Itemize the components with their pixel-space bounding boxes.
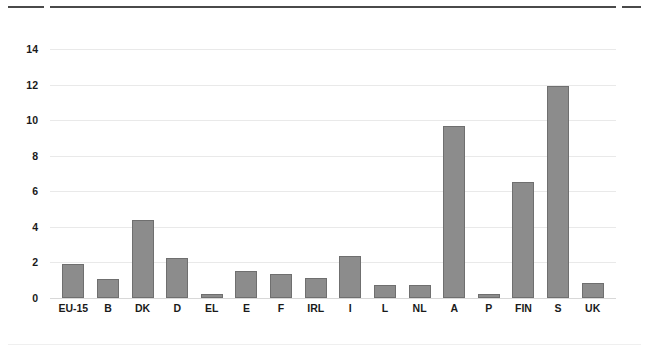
y-axis-tick-label: 0 — [32, 292, 38, 304]
x-axis-tick-label: F — [264, 302, 299, 320]
bar-series — [50, 49, 616, 298]
bar[interactable] — [235, 271, 257, 298]
bar-slot — [333, 49, 368, 298]
bar[interactable] — [339, 256, 361, 298]
x-axis-tick-label: P — [472, 302, 507, 320]
x-axis-tick-label: A — [437, 302, 472, 320]
bar[interactable] — [582, 283, 604, 298]
y-axis-tick-labels: 14 12 10 8 6 4 2 0 — [0, 49, 44, 298]
top-rule-segment-middle — [50, 6, 616, 8]
bar[interactable] — [97, 279, 119, 298]
top-rule-segment-left — [8, 6, 44, 8]
x-axis-tick-label: B — [91, 302, 126, 320]
y-axis-tick-label: 8 — [32, 150, 38, 162]
bar-slot — [160, 49, 195, 298]
bar-slot — [264, 49, 299, 298]
bar-slot — [472, 49, 507, 298]
bar[interactable] — [201, 294, 223, 298]
x-axis-tick-label: EU-15 — [56, 302, 91, 320]
bar[interactable] — [305, 278, 327, 298]
bar[interactable] — [374, 285, 396, 298]
bar-slot — [541, 49, 576, 298]
bar-slot — [195, 49, 230, 298]
bar-slot — [437, 49, 472, 298]
x-axis-tick-label: E — [229, 302, 264, 320]
bar-slot — [506, 49, 541, 298]
x-axis-tick-label: DK — [125, 302, 160, 320]
top-rule-segment-right — [622, 6, 641, 8]
x-axis-tick-label: S — [541, 302, 576, 320]
x-axis-tick-label: UK — [575, 302, 610, 320]
bar-slot — [229, 49, 264, 298]
bar[interactable] — [512, 182, 534, 298]
bar[interactable] — [132, 220, 154, 298]
bar-slot — [575, 49, 610, 298]
y-axis-tick-label: 14 — [26, 43, 38, 55]
plot-area — [50, 49, 616, 298]
bar[interactable] — [478, 294, 500, 298]
bar-slot — [402, 49, 437, 298]
x-axis-tick-label: IRL — [298, 302, 333, 320]
chart-figure: 14 12 10 8 6 4 2 0 EU-15BDKDELEFIRLILNLA… — [0, 0, 649, 352]
bar[interactable] — [270, 274, 292, 298]
bar[interactable] — [409, 285, 431, 298]
bar-slot — [56, 49, 91, 298]
bar-slot — [91, 49, 126, 298]
y-axis-tick-label: 2 — [32, 256, 38, 268]
y-axis-tick-label: 10 — [26, 114, 38, 126]
x-axis-tick-label: D — [160, 302, 195, 320]
bar-slot — [368, 49, 403, 298]
y-axis-tick-label: 6 — [32, 185, 38, 197]
bottom-rule — [8, 344, 641, 345]
x-axis-tick-label: L — [368, 302, 403, 320]
x-axis-tick-label: I — [333, 302, 368, 320]
bar-slot — [125, 49, 160, 298]
x-axis-tick-label: EL — [195, 302, 230, 320]
bar-slot — [298, 49, 333, 298]
bar[interactable] — [443, 126, 465, 298]
x-axis-tick-labels: EU-15BDKDELEFIRLILNLAPFINSUK — [50, 302, 616, 320]
bar[interactable] — [62, 264, 84, 298]
x-axis-tick-label: NL — [402, 302, 437, 320]
x-axis-tick-label: FIN — [506, 302, 541, 320]
axis-baseline — [50, 298, 616, 299]
y-axis-tick-label: 4 — [32, 221, 38, 233]
bar[interactable] — [547, 86, 569, 298]
y-axis-tick-label: 12 — [26, 79, 38, 91]
bar[interactable] — [166, 258, 188, 298]
